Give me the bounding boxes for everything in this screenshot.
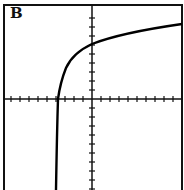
graph-panel xyxy=(0,0,184,190)
panel-label: B xyxy=(10,4,23,22)
log-curve xyxy=(56,24,182,190)
axis-ticks xyxy=(11,18,182,189)
